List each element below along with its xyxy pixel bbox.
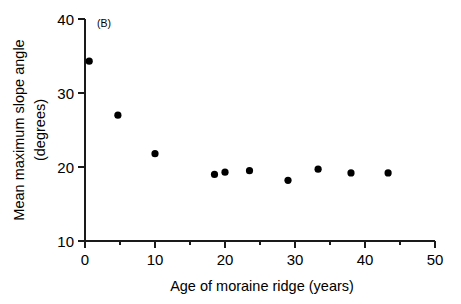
data-point (151, 150, 158, 157)
figure-panel-b: 1020304001020304050 (B) Age of moraine r… (0, 0, 461, 304)
tick-labels: 1020304001020304050 (57, 11, 443, 269)
x-tick-label: 30 (287, 251, 304, 268)
data-point (246, 167, 253, 174)
x-axis-title: Age of moraine ridge (years) (170, 278, 354, 294)
data-point (221, 169, 228, 176)
axes (85, 19, 435, 241)
y-tick-label: 30 (57, 85, 74, 102)
data-point (114, 112, 121, 119)
data-points (86, 58, 392, 184)
data-point (86, 58, 93, 65)
x-tick-label: 0 (81, 251, 89, 268)
x-tick-label: 40 (357, 251, 374, 268)
x-tick-label: 50 (427, 251, 444, 268)
data-point (315, 166, 322, 173)
y-tick-label: 10 (57, 233, 74, 250)
x-tick-label: 10 (147, 251, 164, 268)
y-tick-label: 20 (57, 159, 74, 176)
data-point (385, 169, 392, 176)
y-tick-label: 40 (57, 11, 74, 28)
data-point (347, 169, 354, 176)
data-point (284, 177, 291, 184)
y-axis-title-line1: Mean maximum slope angle (11, 39, 27, 220)
data-point (211, 171, 218, 178)
y-axis-title-line2: (degrees) (32, 99, 48, 161)
tick-marks (78, 19, 435, 248)
x-tick-label: 20 (217, 251, 234, 268)
panel-label: (B) (97, 17, 111, 29)
scatter-plot: 1020304001020304050 (B) Age of moraine r… (0, 0, 461, 304)
